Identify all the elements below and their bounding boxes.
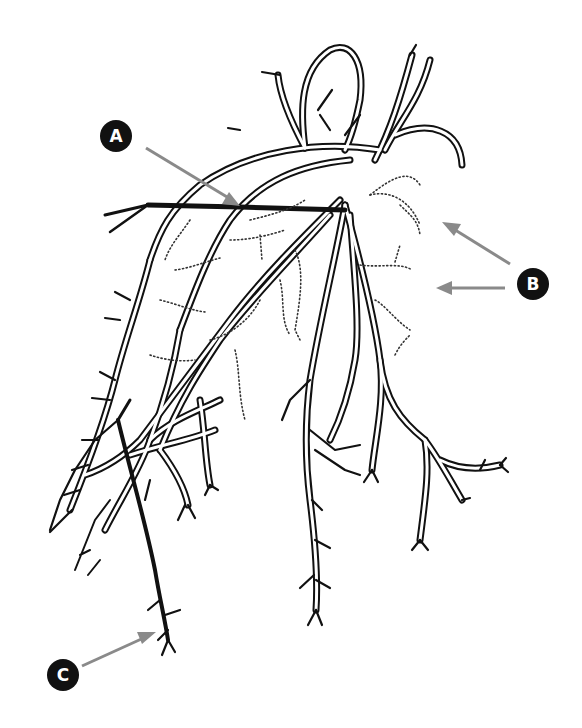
main-roots (70, 47, 500, 610)
callout-arrows (82, 148, 510, 666)
root-system-drawing (0, 0, 582, 728)
arrow-c-head-icon (137, 632, 156, 644)
callout-label-c: C (47, 659, 79, 691)
callout-label-b: B (517, 268, 549, 300)
arrow-b-lower-head-icon (436, 281, 452, 295)
arrow-c (82, 636, 148, 666)
arrow-b-upper (452, 228, 510, 264)
arrow-b-upper-head-icon (442, 222, 461, 236)
callout-label-a: A (100, 120, 132, 152)
